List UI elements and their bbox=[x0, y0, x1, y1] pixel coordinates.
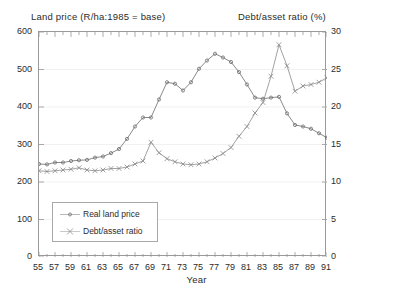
y2-tick-label: 20 bbox=[331, 101, 357, 111]
series-line-debt-asset-ratio bbox=[39, 45, 327, 172]
legend-item-1: Debt/asset ratio bbox=[53, 223, 159, 240]
left-axis-title: Land price (R/ha:1985 = base) bbox=[31, 11, 165, 22]
right-axis-title: Debt/asset ratio (%) bbox=[238, 11, 326, 22]
legend-label-1: Debt/asset ratio bbox=[83, 226, 143, 236]
chart-figure: Land price (R/ha:1985 = base) Debt/asset… bbox=[0, 0, 393, 290]
legend-item-0: Real land price bbox=[53, 206, 159, 223]
y2-tick-label: 5 bbox=[331, 214, 357, 224]
legend-marker-dot-icon bbox=[59, 206, 81, 223]
legend-marker-cross-icon bbox=[59, 223, 81, 240]
chart-legend: Real land price Debt/asset ratio bbox=[52, 202, 158, 242]
y-tick-label: 500 bbox=[4, 64, 32, 74]
y-tick-label: 400 bbox=[4, 101, 32, 111]
y-tick-label: 600 bbox=[4, 26, 32, 36]
x-tick-label: 91 bbox=[316, 262, 336, 272]
y-tick-label: 300 bbox=[4, 139, 32, 149]
y2-tick-label: 10 bbox=[331, 176, 357, 186]
x-axis-title: Year bbox=[0, 274, 393, 285]
legend-label-0: Real land price bbox=[83, 209, 140, 219]
y2-tick-label: 30 bbox=[331, 26, 357, 36]
y2-tick-label: 15 bbox=[331, 139, 357, 149]
y-tick-label: 100 bbox=[4, 214, 32, 224]
series-line-real-land-price bbox=[39, 54, 327, 165]
y2-tick-label: 0 bbox=[331, 251, 357, 261]
y-tick-label: 200 bbox=[4, 176, 32, 186]
y2-tick-label: 25 bbox=[331, 64, 357, 74]
y-tick-label: 0 bbox=[4, 251, 32, 261]
